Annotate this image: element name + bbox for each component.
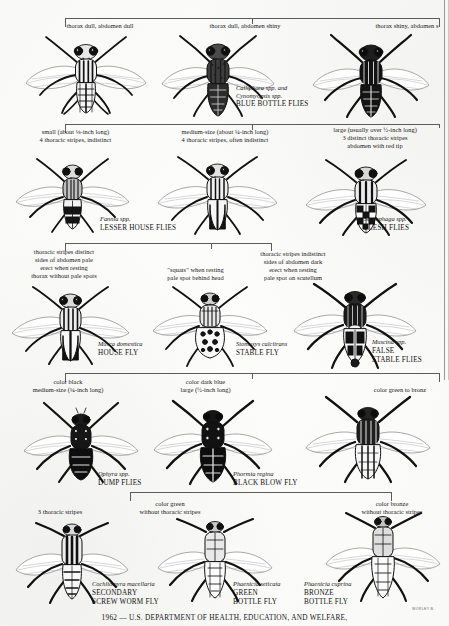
fly-illustration-blowfly-dull [20, 33, 150, 115]
caption-row1-col1: thorax dull, abdomen dull [20, 22, 180, 30]
common-name-bronze-bottle-fly: BRONZE BOTTLE FLY [304, 589, 384, 606]
caption-row4-col1: color black medium-size (¼-inch long) [0, 378, 136, 394]
caption-row1-col3: thorax shiny, abdomen s [352, 22, 449, 30]
page-edge-line [444, 0, 445, 380]
bracket-horizontal-line [65, 243, 272, 244]
scientific-name-dump-flies: Ophyra spp. [98, 470, 170, 478]
scientific-name-screw-worm-fly: Cochliomyra macellaria [92, 580, 192, 588]
bracket-tick-middle [211, 243, 212, 249]
scientific-name-stable-fly: Stomoxys calcitrans [236, 340, 326, 348]
bracket-tick-right [439, 373, 440, 382]
caption-row5-col1: 3 thoracic stripes [16, 508, 104, 516]
artist-signature: WORLEY B. [412, 607, 435, 611]
common-name-flesh-flies: FLESH FLIES [364, 224, 448, 233]
chart-sheet: thorax dull, abdomen dull thorax dull, a… [0, 0, 449, 626]
common-name-false-stable-flies: FALSE STABLE FLIES [372, 347, 449, 364]
caption-row2-col1: small (about ⅛-inch long) 4 thoracic str… [8, 128, 143, 144]
common-name-lesser-house-flies: LESSER HOUSE FLIES [100, 224, 210, 233]
common-name-green-bottle-fly: GREEN BOTTLE FLY [233, 589, 315, 606]
caption-row3-col1: thoracic stripes distinct sides of abdom… [4, 248, 124, 280]
caption-row4-col2: color dark blue large (½-inch long) [143, 378, 268, 394]
fly-illustration-green-bronze-row4 [300, 396, 435, 482]
bracket-horizontal-line [130, 492, 392, 493]
document-footer-credit: 1962 — U.S. DEPARTMENT OF HEALTH, EDUCAT… [0, 613, 449, 622]
common-name-dump-flies: DUMP FLIES [98, 479, 176, 488]
scientific-name-house-fly: Musca domestica [98, 340, 178, 348]
common-name-blue-bottle: BLUE BOTTLE FLIES [236, 100, 366, 109]
common-name-screw-worm-fly: SECONDARY SCREW WORM FLY [92, 589, 192, 606]
scientific-name-black-blow-fly: Phormia regina [233, 470, 319, 478]
scientific-name-bronze-bottle-fly: Phaenicia cuprina [304, 580, 384, 588]
scientific-name-green-bottle-fly: Phaenicia seticata [233, 580, 315, 588]
caption-row5-col2: color green without thoracic stripes [108, 500, 232, 516]
scientific-name-false-stable-flies: Muscina spp. [372, 338, 448, 346]
scientific-name-flesh-flies: Sarcophaga spp. [364, 215, 448, 223]
common-name-house-fly: HOUSE FLY [98, 349, 178, 358]
caption-row4-col3: color green to bronz [345, 386, 449, 394]
caption-row2-col2: medium-size (about ¼-inch long) 4 thorac… [140, 128, 310, 144]
scientific-name-blue-bottle: Calliphora spp. and Cynomyopsis spp. [236, 84, 356, 100]
caption-row1-col2: thorax dull, abdomen shiny [165, 22, 325, 30]
common-name-stable-fly: STABLE FLY [236, 349, 326, 358]
common-name-black-blow-fly: BLACK BLOW FLY [233, 479, 329, 488]
scientific-name-lesser-house-flies: Fannia spp. [100, 215, 190, 223]
caption-row2-col3: large (usually over ½-inch long) 3 disti… [300, 126, 449, 150]
caption-row3-col3: thoracic stripes indistinct sides of abd… [228, 250, 358, 282]
